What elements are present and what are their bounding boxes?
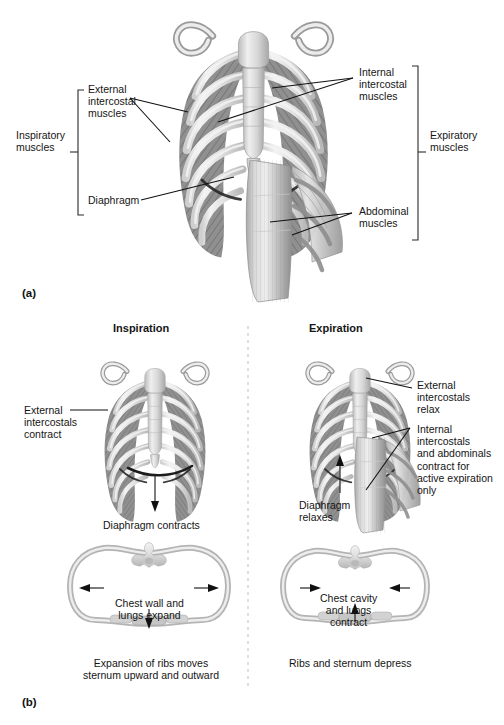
diaphragm-down-arrow xyxy=(151,476,159,512)
expiratory-muscles-label: Expiratory muscles xyxy=(430,129,477,153)
external-intercostals-contract-label: External intercostals contract xyxy=(24,404,77,441)
internal-intercostals-abdominals-label: Internal intercostals and abdominals con… xyxy=(417,423,493,496)
diaphragm-label: Diaphragm xyxy=(88,194,139,206)
diaphragm-relaxes-caption: Diaphragm relaxes xyxy=(299,499,350,523)
expansion-of-ribs-caption: Expansion of ribs moves sternum upward a… xyxy=(83,657,219,681)
expiration-heading: Expiration xyxy=(309,322,363,334)
panel-b-tag: (b) xyxy=(22,696,37,708)
vertebra-expiration xyxy=(338,546,371,570)
abdominal-muscles-illustration xyxy=(246,160,342,302)
abdominal-muscles-label: Abdominal muscles xyxy=(359,205,409,229)
expiration-illustration xyxy=(283,364,427,622)
diaphragm-contracts-caption: Diaphragm contracts xyxy=(103,519,200,531)
leader-external-intercostal-2 xyxy=(130,98,170,142)
ribs-sternum-depress-caption: Ribs and sternum depress xyxy=(289,657,412,669)
respiration-muscles-figure: Inspiratory muscles External intercostal… xyxy=(0,0,504,725)
figure-canvas xyxy=(0,0,504,725)
chest-cavity-lungs-contract-text: Chest cavity and lungs contract xyxy=(320,592,377,629)
inspiration-heading: Inspiration xyxy=(113,322,169,334)
inspiratory-bracket xyxy=(78,90,84,215)
expiratory-bracket xyxy=(412,66,418,240)
chest-wall-lungs-expand-text: Chest wall and lungs expand xyxy=(115,597,184,621)
vertebra-inspiration xyxy=(132,543,167,568)
inspiration-illustration xyxy=(70,364,228,629)
leader-external-intercostal-1 xyxy=(130,98,188,112)
panel-a-tag: (a) xyxy=(22,287,36,299)
internal-intercostal-muscles-label: Internal intercostal muscles xyxy=(359,66,407,103)
external-intercostal-muscles-label: External intercostal muscles xyxy=(88,83,136,120)
external-intercostals-relax-label: External intercostals relax xyxy=(417,379,470,416)
inspiratory-muscles-label: Inspiratory muscles xyxy=(16,129,65,153)
